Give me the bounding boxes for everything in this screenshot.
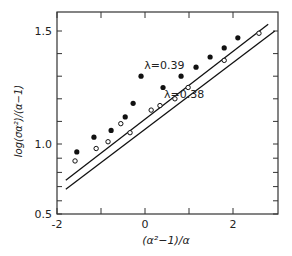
x-axis-ticks: -202 (52, 12, 237, 231)
x-tick-label: -2 (52, 218, 63, 231)
open-point (222, 58, 226, 62)
series-label: λ=0.38 (164, 88, 204, 101)
open-point (128, 131, 132, 135)
filled-point (91, 135, 96, 140)
filled-point (235, 35, 240, 40)
fit-lines (66, 24, 275, 189)
series-label: λ=0.39 (144, 59, 184, 72)
x-axis-label: (α²−1)/α (142, 234, 190, 247)
filled-point (208, 54, 213, 59)
y-tick-label: 1.0 (35, 138, 53, 151)
filled-point (74, 149, 79, 154)
filled-point (193, 65, 198, 70)
y-axis-ticks: 0.51.01.5 (35, 25, 279, 221)
y-tick-label: 0.5 (35, 208, 53, 221)
filled-point (138, 74, 143, 79)
filled-point (109, 128, 114, 133)
y-tick-label: 1.5 (35, 25, 53, 38)
filled-point (178, 74, 183, 79)
filled-point (131, 101, 136, 106)
fit-line (66, 24, 268, 180)
open-point (94, 146, 98, 150)
open-point (106, 140, 110, 144)
x-tick-label: 2 (230, 218, 237, 231)
open-point (119, 121, 123, 125)
filled-point (222, 45, 227, 50)
open-point (149, 108, 153, 112)
open-point (158, 103, 162, 107)
fit-line (66, 31, 275, 189)
open-point (73, 159, 77, 163)
open-point (257, 31, 261, 35)
filled-point (123, 114, 128, 119)
scatter-chart: 0.51.01.5 -202 λ=0.39λ=0.38 (α²−1)/α log… (0, 0, 292, 256)
x-tick-label: 0 (142, 218, 149, 231)
y-axis-label: log(σα²)/(α−1) (13, 85, 24, 158)
